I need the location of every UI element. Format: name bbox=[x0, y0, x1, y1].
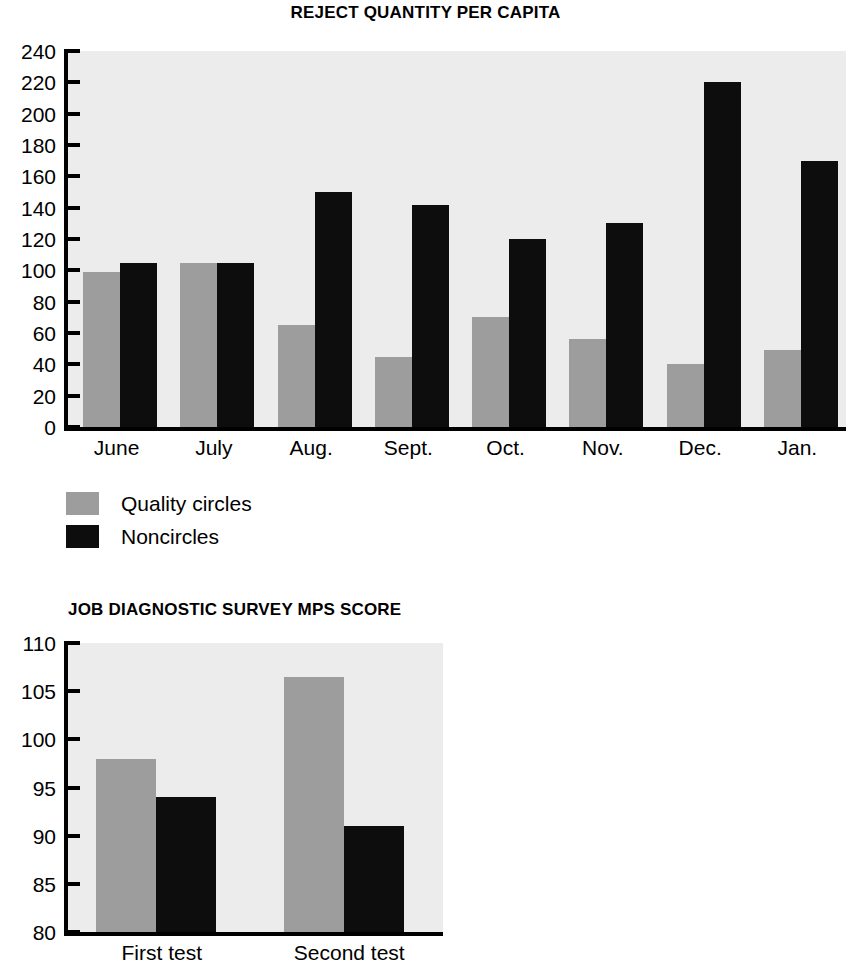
legend-item-quality-circles: Quality circles bbox=[66, 487, 252, 520]
chart2-title: JOB DIAGNOSTIC SURVEY MPS SCORE bbox=[68, 600, 401, 620]
x-axis-label: Nov. bbox=[554, 437, 651, 458]
x-axis-label: Aug. bbox=[263, 437, 360, 458]
bar-noncircles-aug bbox=[315, 192, 352, 427]
bar-noncircles-second-test bbox=[344, 826, 404, 932]
bar-noncircles-sept bbox=[412, 205, 449, 427]
legend-label-noncircles: Noncircles bbox=[121, 526, 219, 547]
legend-swatch-icon-quality-circles bbox=[66, 492, 99, 515]
y-axis-tick-label: 90 bbox=[4, 826, 56, 847]
bar-noncircles-july bbox=[217, 263, 254, 428]
chart1-title: REJECT QUANTITY PER CAPITA bbox=[0, 3, 851, 23]
y-axis-tick-label: 110 bbox=[4, 633, 56, 654]
bar-noncircles-dec bbox=[704, 82, 741, 427]
bar-noncircles-first-test bbox=[156, 797, 216, 932]
y-axis-tick-label: 80 bbox=[4, 922, 56, 943]
x-axis-label: July bbox=[165, 437, 262, 458]
chart1-legend: Quality circles Noncircles bbox=[66, 487, 252, 553]
y-axis-tick-label: 85 bbox=[4, 874, 56, 895]
bar-quality-circles-nov bbox=[569, 339, 606, 427]
x-axis-label: Oct. bbox=[457, 437, 554, 458]
y-axis-tick-label: 20 bbox=[4, 386, 56, 407]
x-axis-label: Jan. bbox=[749, 437, 846, 458]
y-axis-tick-label: 100 bbox=[4, 729, 56, 750]
y-axis-tick-label: 120 bbox=[4, 229, 56, 250]
y-axis-tick-label: 80 bbox=[4, 292, 56, 313]
bar-quality-circles-second-test bbox=[284, 677, 344, 932]
bar-quality-circles-june bbox=[83, 272, 120, 427]
bar-quality-circles-first-test bbox=[96, 759, 156, 932]
y-axis-tick-label: 240 bbox=[4, 41, 56, 62]
x-axis-label: Sept. bbox=[360, 437, 457, 458]
chart1-bars bbox=[68, 51, 846, 427]
bar-noncircles-june bbox=[120, 263, 157, 428]
bar-quality-circles-dec bbox=[667, 364, 704, 427]
y-axis-tick-label: 60 bbox=[4, 323, 56, 344]
bar-noncircles-jan bbox=[801, 161, 838, 427]
x-axis-label: Dec. bbox=[652, 437, 749, 458]
chart1-x-axis-line bbox=[64, 427, 846, 431]
y-axis-tick-label: 220 bbox=[4, 72, 56, 93]
y-axis-tick-label: 200 bbox=[4, 104, 56, 125]
y-axis-tick-label: 160 bbox=[4, 166, 56, 187]
y-axis-tick-label: 100 bbox=[4, 260, 56, 281]
bar-quality-circles-aug bbox=[278, 325, 315, 427]
bar-quality-circles-jan bbox=[764, 350, 801, 427]
y-axis-tick-label: 180 bbox=[4, 135, 56, 156]
x-axis-label: Second test bbox=[256, 942, 444, 963]
x-axis-label: June bbox=[68, 437, 165, 458]
legend-swatch-icon-noncircles bbox=[66, 525, 99, 548]
legend-item-noncircles: Noncircles bbox=[66, 520, 252, 553]
bar-noncircles-oct bbox=[509, 239, 546, 427]
bar-quality-circles-oct bbox=[472, 317, 509, 427]
legend-label-quality-circles: Quality circles bbox=[121, 493, 252, 514]
y-axis-tick-label: 105 bbox=[4, 681, 56, 702]
reject-quantity-chart: REJECT QUANTITY PER CAPITA 2402202001801… bbox=[0, 0, 851, 570]
bar-noncircles-nov bbox=[606, 223, 643, 427]
chart2-x-axis-line bbox=[64, 932, 443, 936]
y-axis-tick-label: 0 bbox=[4, 417, 56, 438]
y-axis-tick-label: 95 bbox=[4, 778, 56, 799]
y-axis-tick-label: 40 bbox=[4, 354, 56, 375]
chart2-bars bbox=[68, 643, 443, 932]
bar-quality-circles-july bbox=[180, 263, 217, 428]
bar-quality-circles-sept bbox=[375, 357, 412, 428]
job-diagnostic-survey-chart: JOB DIAGNOSTIC SURVEY MPS SCORE 11010510… bbox=[0, 592, 851, 980]
y-axis-tick-label: 140 bbox=[4, 198, 56, 219]
x-axis-label: First test bbox=[68, 942, 256, 963]
